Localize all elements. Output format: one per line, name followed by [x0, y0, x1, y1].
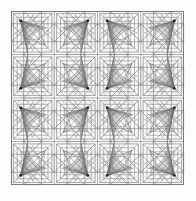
- geometric-pattern-svg: [0, 0, 196, 201]
- motif-node: [86, 87, 89, 90]
- motif-node: [86, 106, 89, 109]
- motif-node: [19, 174, 22, 177]
- motif-node: [19, 19, 22, 22]
- motif-node: [86, 19, 89, 22]
- motif-node: [173, 87, 176, 90]
- motif-node: [106, 19, 109, 22]
- motif-node: [106, 106, 109, 109]
- motif-node: [86, 174, 89, 177]
- motif-node: [173, 174, 176, 177]
- motif-node: [173, 106, 176, 109]
- motif-node: [19, 87, 22, 90]
- artwork-canvas: [0, 0, 196, 201]
- motif-node: [173, 19, 176, 22]
- motif-node: [106, 174, 109, 177]
- motif-node: [19, 106, 22, 109]
- motif-node: [106, 87, 109, 90]
